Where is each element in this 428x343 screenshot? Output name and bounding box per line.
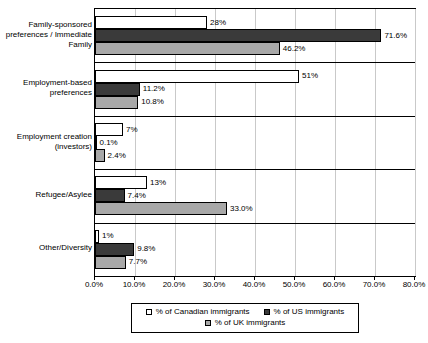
legend-swatch-uk-icon xyxy=(205,320,211,326)
bar-us xyxy=(95,29,381,42)
bar-value-label: 28% xyxy=(207,19,226,27)
y-axis-category-label: Employment-based preferences xyxy=(0,78,92,98)
bar-uk xyxy=(95,149,105,162)
bar-slot: 0.1% xyxy=(95,136,415,149)
bar-value-label: 7% xyxy=(123,126,138,134)
bar-slot: 51% xyxy=(95,70,415,83)
bar-slot: 13% xyxy=(95,176,415,189)
bar-slot: 28% xyxy=(95,16,415,29)
x-axis-tick-label: 60.0% xyxy=(323,281,346,289)
x-axis-tick-label: 20.0% xyxy=(163,281,186,289)
bar-value-label: 7.4% xyxy=(125,192,146,200)
bar-value-label: 33.0% xyxy=(227,205,253,213)
y-axis-category-label: Family-sponsored preferences / Immediate… xyxy=(0,20,92,50)
bar-uk xyxy=(95,256,126,269)
legend-row: % of Canadian immigrants % of US immigra… xyxy=(138,308,352,316)
bar-slot: 1% xyxy=(95,230,415,243)
category-separator xyxy=(95,223,415,224)
bar-us xyxy=(95,83,140,96)
bar-slot: 9.8% xyxy=(95,243,415,256)
legend-row: % of UK immigrants xyxy=(138,319,352,327)
bar-uk xyxy=(95,202,227,215)
gridline xyxy=(415,9,416,276)
bar-value-label: 2.4% xyxy=(105,152,126,160)
bar-value-label: 1% xyxy=(99,232,114,240)
bar-value-label: 9.8% xyxy=(134,245,155,253)
legend-item-us: % of US immigrants xyxy=(264,308,345,316)
bar-ca xyxy=(95,70,299,83)
bar-value-label: 7.7% xyxy=(126,258,147,266)
bar-us xyxy=(95,243,134,256)
bar-slot: 2.4% xyxy=(95,149,415,162)
bar-slot: 46.2% xyxy=(95,42,415,55)
bar-value-label: 71.6% xyxy=(381,32,407,40)
bar-slot: 33.0% xyxy=(95,202,415,215)
x-axis-tick-label: 80.0% xyxy=(403,281,426,289)
x-axis-tick-label: 30.0% xyxy=(203,281,226,289)
x-axis: 0.0%10.0%20.0%30.0%40.0%50.0%60.0%70.0%8… xyxy=(94,277,416,293)
x-axis-tick-label: 40.0% xyxy=(243,281,266,289)
legend-swatch-canadian-icon xyxy=(146,309,152,315)
bar-slot: 11.2% xyxy=(95,83,415,96)
bar-slot: 71.6% xyxy=(95,29,415,42)
bar-slot: 7.4% xyxy=(95,189,415,202)
bar-uk xyxy=(95,96,138,109)
category-separator xyxy=(95,116,415,117)
bar-value-label: 10.8% xyxy=(138,98,164,106)
x-axis-tick-label: 50.0% xyxy=(283,281,306,289)
bar-ca xyxy=(95,16,207,29)
legend-item-uk: % of UK immigrants xyxy=(205,319,286,327)
x-axis-tick-label: 70.0% xyxy=(363,281,386,289)
bar-value-label: 0.1% xyxy=(97,139,118,147)
bar-slot: 7.7% xyxy=(95,256,415,269)
chart-legend: % of Canadian immigrants % of US immigra… xyxy=(131,303,359,333)
bar-uk xyxy=(95,42,280,55)
legend-item-canadian: % of Canadian immigrants xyxy=(146,308,250,316)
y-axis-category-label: Employment creation (investors) xyxy=(0,132,92,152)
bar-slot: 10.8% xyxy=(95,96,415,109)
bar-slot: 7% xyxy=(95,123,415,136)
bar-ca xyxy=(95,123,123,136)
y-axis-category-label: Refugee/Asylee xyxy=(0,190,92,200)
legend-label-uk: % of UK immigrants xyxy=(215,319,286,327)
legend-label-us: % of US immigrants xyxy=(274,308,345,316)
x-axis-tick-label: 0.0% xyxy=(85,281,103,289)
bar-value-label: 11.2% xyxy=(140,85,165,93)
bar-value-label: 13% xyxy=(147,179,166,187)
bar-value-label: 51% xyxy=(299,72,318,80)
legend-label-canadian: % of Canadian immigrants xyxy=(156,308,250,316)
x-axis-tick-label: 10.0% xyxy=(123,281,146,289)
bar-value-label: 46.2% xyxy=(280,45,306,53)
bar-chart: 28%71.6%46.2%51%11.2%10.8%7%0.1%2.4%13%7… xyxy=(0,0,428,343)
bar-us xyxy=(95,189,125,202)
bar-ca xyxy=(95,176,147,189)
plot-area: 28%71.6%46.2%51%11.2%10.8%7%0.1%2.4%13%7… xyxy=(94,8,416,277)
legend-swatch-us-icon xyxy=(264,309,270,315)
category-separator xyxy=(95,62,415,63)
y-axis-category-label: Other/Diversity xyxy=(0,243,92,253)
category-separator xyxy=(95,169,415,170)
